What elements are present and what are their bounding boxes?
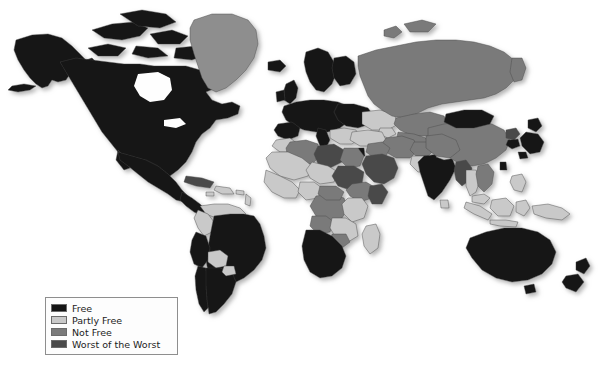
region-ireland bbox=[276, 90, 285, 102]
legend-item-not-free: Not Free bbox=[51, 326, 172, 338]
region-puerto-rico bbox=[236, 190, 244, 195]
map-legend: Free Partly Free Not Free Worst of the W… bbox=[45, 297, 178, 355]
legend-swatch-partly-free bbox=[51, 316, 67, 324]
region-taiwan bbox=[500, 162, 507, 170]
region-sri-lanka bbox=[440, 200, 449, 208]
region-japan-kyushu bbox=[518, 152, 528, 159]
legend-label-worst-of-the-worst: Worst of the Worst bbox=[72, 339, 160, 350]
legend-label-partly-free: Partly Free bbox=[72, 315, 122, 326]
legend-swatch-worst-of-the-worst bbox=[51, 340, 67, 348]
legend-item-free: Free bbox=[51, 302, 172, 314]
legend-item-partly-free: Partly Free bbox=[51, 314, 172, 326]
region-jamaica bbox=[206, 192, 214, 196]
world-map-figure: Free Partly Free Not Free Worst of the W… bbox=[0, 0, 607, 369]
legend-item-worst-of-the-worst: Worst of the Worst bbox=[51, 338, 172, 350]
legend-label-free: Free bbox=[72, 303, 92, 314]
legend-swatch-not-free bbox=[51, 328, 67, 336]
region-tasmania bbox=[524, 284, 536, 294]
legend-label-not-free: Not Free bbox=[72, 327, 112, 338]
legend-swatch-free bbox=[51, 304, 67, 312]
